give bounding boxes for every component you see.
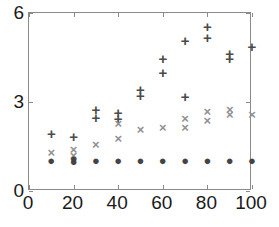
y-tick-label-6: 6 (0, 3, 24, 22)
x-tick-label-80: 80 (196, 193, 217, 212)
plot-area: +++++++++++++++++×××××××××××××××●●●●●●●●… (28, 12, 251, 190)
data-point-circle-series: ● (70, 151, 78, 164)
y-tick-6 (246, 13, 250, 14)
y-tick-label-0: 0 (0, 181, 24, 200)
data-point-cross-series: × (226, 103, 234, 116)
data-point-cross-series: × (114, 116, 122, 129)
y-tick-3 (246, 102, 250, 103)
x-tick-label-40: 40 (107, 193, 128, 212)
x-tick-20 (74, 13, 75, 17)
data-point-plus-series: + (225, 46, 234, 61)
data-point-circle-series: ● (181, 153, 189, 166)
data-point-plus-series: + (158, 65, 167, 80)
x-tick-80 (207, 13, 208, 17)
scatter-chart: +++++++++++++++++×××××××××××××××●●●●●●●●… (0, 0, 279, 227)
data-point-circle-series: ● (203, 153, 211, 166)
x-tick-40 (118, 13, 119, 17)
data-point-cross-series: × (114, 131, 122, 144)
data-point-plus-series: + (92, 102, 101, 117)
data-point-circle-series: ● (137, 153, 145, 166)
x-tick-20 (74, 185, 75, 189)
y-tick-label-3: 3 (0, 92, 24, 111)
x-tick-label-60: 60 (151, 193, 172, 212)
data-point-plus-series: + (181, 89, 190, 104)
data-point-plus-series: + (248, 38, 257, 53)
x-tick-60 (163, 13, 164, 17)
data-point-circle-series: ● (248, 153, 256, 166)
data-point-cross-series: × (204, 104, 212, 117)
y-tick-3 (29, 102, 33, 103)
data-point-circle-series: ● (226, 153, 234, 166)
data-point-cross-series: × (137, 122, 145, 135)
data-point-circle-series: ● (92, 153, 100, 166)
x-tick-label-0: 0 (23, 193, 34, 212)
x-tick-60 (163, 185, 164, 189)
x-tick-100 (252, 185, 253, 189)
data-point-plus-series: + (203, 19, 212, 34)
x-tick-label-100: 100 (235, 193, 267, 212)
data-point-plus-series: + (158, 50, 167, 65)
x-tick-100 (252, 13, 253, 17)
data-point-cross-series: × (92, 137, 100, 150)
data-point-circle-series: ● (47, 153, 55, 166)
data-point-circle-series: ● (114, 153, 122, 166)
x-tick-label-20: 20 (62, 193, 83, 212)
x-tick-0 (29, 185, 30, 189)
data-point-plus-series: + (136, 81, 145, 96)
y-tick-6 (29, 13, 33, 14)
data-point-plus-series: + (47, 126, 56, 141)
data-point-cross-series: × (181, 112, 189, 125)
data-point-plus-series: + (181, 32, 190, 47)
data-point-cross-series: × (248, 107, 256, 120)
data-point-circle-series: ● (159, 153, 167, 166)
x-tick-40 (118, 185, 119, 189)
x-tick-80 (207, 185, 208, 189)
data-point-cross-series: × (159, 121, 167, 134)
